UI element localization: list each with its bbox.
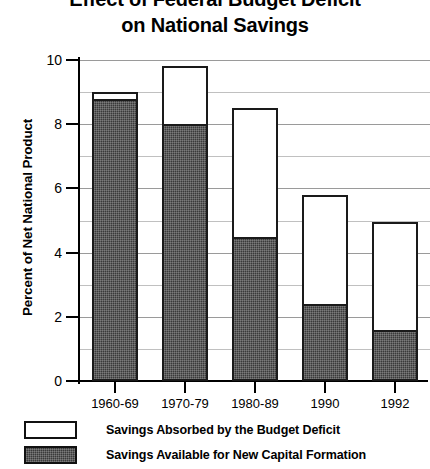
- x-axis-tick: [184, 381, 186, 393]
- legend-item-absorbed: Savings Absorbed by the Budget Deficit: [24, 419, 424, 444]
- bar-segment-available[interactable]: [92, 99, 138, 381]
- legend-label-absorbed: Savings Absorbed by the Budget Deficit: [106, 422, 340, 438]
- bar-group[interactable]: [92, 60, 138, 381]
- x-axis-tick: [254, 381, 256, 393]
- bar-group[interactable]: [162, 60, 208, 381]
- y-axis-tick-label: 2: [22, 310, 62, 324]
- y-axis-title: Percent of Net National Product: [20, 103, 35, 333]
- y-axis-tick-label: 10: [22, 53, 62, 67]
- chart-title-line-1: Effect of Federal Budget Deficit: [0, 0, 430, 12]
- x-axis-tick: [114, 381, 116, 393]
- y-axis-tick: [66, 316, 80, 318]
- legend-item-available: Savings Available for New Capital Format…: [24, 444, 424, 469]
- y-axis-tick-label: 4: [22, 246, 62, 260]
- y-axis-tick: [66, 252, 80, 254]
- y-axis-tick-label: 8: [22, 117, 62, 131]
- chart-title-line-2: on National Savings: [0, 12, 430, 38]
- bar-group[interactable]: [232, 60, 278, 381]
- y-axis-tick-label: 6: [22, 181, 62, 195]
- chart-title: Effect of Federal Budget Deficit on Nati…: [0, 0, 430, 38]
- y-axis-tick-label: 0: [22, 374, 62, 388]
- bar-segment-available[interactable]: [372, 330, 418, 381]
- bar-group[interactable]: [372, 60, 418, 381]
- y-axis-tick: [66, 380, 80, 382]
- bar-group[interactable]: [302, 60, 348, 381]
- y-axis-tick: [66, 123, 80, 125]
- x-axis-tick: [324, 381, 326, 393]
- legend-swatch-open-icon: [24, 421, 77, 439]
- plot-area: [80, 60, 430, 381]
- y-axis-tick: [66, 59, 80, 61]
- x-axis-tick-label: 1992: [350, 396, 430, 411]
- chart-legend: Savings Absorbed by the Budget Deficit S…: [24, 419, 424, 469]
- bar-segment-available[interactable]: [162, 124, 208, 381]
- legend-label-available: Savings Available for New Capital Format…: [106, 447, 366, 463]
- bar-segment-available[interactable]: [232, 237, 278, 381]
- x-axis-tick: [394, 381, 396, 393]
- y-axis-tick: [66, 187, 80, 189]
- legend-swatch-filled-icon: [24, 446, 77, 464]
- bar-segment-available[interactable]: [302, 304, 348, 381]
